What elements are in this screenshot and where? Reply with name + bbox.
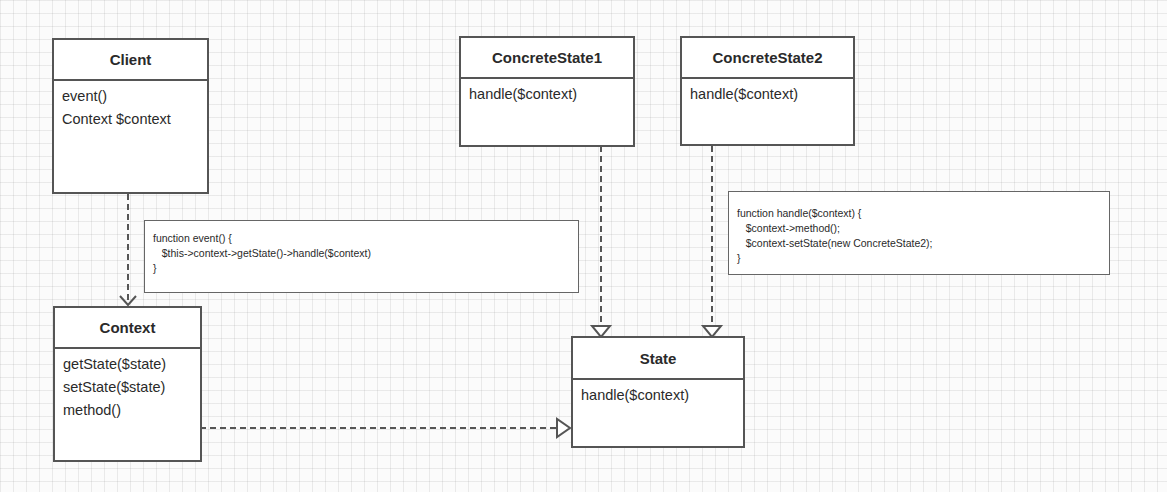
class-state-member: handle($context)	[581, 384, 735, 407]
class-client-title: Client	[54, 40, 207, 81]
class-client-member: Context $context	[62, 108, 199, 131]
note-line: $context-setState(new ConcreteState2);	[737, 236, 1101, 251]
note-event-function[interactable]: function event() { $this->context->getSt…	[144, 220, 579, 293]
class-concrete-state2-title: ConcreteState2	[682, 38, 853, 79]
class-client[interactable]: Client event() Context $context	[52, 38, 209, 194]
class-context-member: setState($state)	[63, 376, 192, 399]
note-line: $this->context->getState()->handle($cont…	[153, 246, 570, 261]
note-line: function event() {	[153, 231, 570, 246]
class-concrete-state2[interactable]: ConcreteState2 handle($context)	[680, 36, 855, 146]
hollow-triangle-icon	[557, 419, 570, 437]
note-handle-function[interactable]: function handle($context) { $context->me…	[728, 191, 1110, 275]
class-concrete-state1-member: handle($context)	[469, 83, 625, 106]
class-client-member: event()	[62, 85, 199, 108]
note-line: function handle($context) {	[737, 206, 1101, 221]
class-state[interactable]: State handle($context)	[571, 336, 745, 448]
class-context-member: method()	[63, 399, 192, 422]
class-state-title: State	[573, 338, 743, 380]
class-concrete-state1[interactable]: ConcreteState1 handle($context)	[459, 36, 635, 147]
class-context[interactable]: Context getState($state) setState($state…	[53, 306, 202, 462]
class-concrete-state2-member: handle($context)	[690, 83, 845, 106]
class-concrete-state1-title: ConcreteState1	[461, 38, 633, 79]
note-line: }	[737, 251, 1101, 266]
note-line: $context->method();	[737, 221, 1101, 236]
class-context-member: getState($state)	[63, 353, 192, 376]
class-context-title: Context	[55, 308, 200, 349]
note-line: }	[153, 261, 570, 276]
